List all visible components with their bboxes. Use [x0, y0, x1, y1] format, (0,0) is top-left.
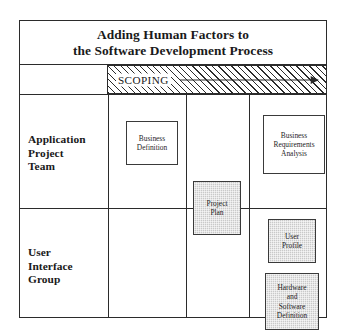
column-divider-2: [186, 95, 187, 317]
right-arrow-icon: [180, 75, 319, 84]
process-box-line: Plan: [207, 208, 228, 217]
process-box-line: Hardware: [277, 283, 307, 292]
process-box-line: User: [282, 232, 302, 241]
row-label-line: User: [28, 246, 106, 260]
process-box-business-definition[interactable]: Business Definition: [126, 121, 178, 165]
row-label-application-project-team: Application Project Team: [28, 133, 106, 174]
process-diagram: Adding Human Factors to the Software Dev…: [19, 20, 327, 318]
phase-band-row: SCOPING: [20, 65, 326, 95]
process-box-line: Software: [277, 302, 307, 311]
row-label-line: Interface: [28, 260, 106, 274]
process-box-line: and: [277, 292, 307, 301]
process-box-line: Definition: [137, 143, 167, 152]
process-box-business-requirements-analysis[interactable]: Business Requirements Analysis: [263, 115, 325, 174]
process-box-hardware-and-software-definition[interactable]: Hardware and Software Definition: [265, 273, 319, 330]
row-label-line: Group: [28, 273, 106, 287]
process-box-label: Project Plan: [205, 199, 230, 217]
diagram-title-line-1: Adding Human Factors to: [97, 27, 249, 43]
row-divider: [20, 208, 326, 209]
scoping-phase-band: SCOPING: [108, 65, 326, 94]
process-box-line: Requirements: [273, 140, 314, 149]
row-label-line: Team: [28, 160, 106, 174]
process-box-user-profile[interactable]: User Profile: [268, 219, 316, 263]
diagram-title-band: Adding Human Factors to the Software Dev…: [20, 21, 326, 65]
row-label-line: Project: [28, 147, 106, 161]
process-box-label: Business Requirements Analysis: [271, 131, 316, 159]
column-divider-3: [249, 95, 250, 317]
process-box-project-plan[interactable]: Project Plan: [193, 181, 241, 235]
process-box-line: Profile: [282, 241, 302, 250]
process-box-line: Analysis: [273, 149, 314, 158]
process-box-label: User Profile: [280, 232, 304, 250]
process-box-label: Business Definition: [135, 134, 169, 152]
diagram-body-grid: Application Project Team User Interface …: [20, 95, 326, 317]
diagram-title-line-2: the Software Development Process: [73, 43, 273, 59]
scoping-phase-label: SCOPING: [116, 73, 171, 86]
process-box-line: Project: [207, 199, 228, 208]
process-box-line: Business: [273, 131, 314, 140]
process-box-line: Business: [137, 134, 167, 143]
phase-band-row-header-cell: [20, 65, 108, 94]
process-box-label: Hardware and Software Definition: [275, 283, 309, 320]
column-divider-1: [108, 95, 109, 317]
process-box-line: Definition: [277, 311, 307, 320]
row-label-user-interface-group: User Interface Group: [28, 246, 106, 287]
row-label-line: Application: [28, 133, 106, 147]
